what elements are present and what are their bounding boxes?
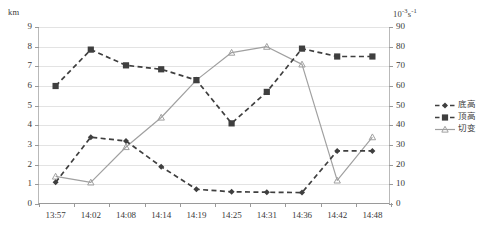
chart-figure: km 10-3s-1 底高顶高切变 0011022033044055066077… xyxy=(0,0,493,237)
data-point-marker xyxy=(193,186,199,192)
legend-item-3[interactable]: 切变 xyxy=(434,121,492,132)
data-point-marker xyxy=(334,148,340,154)
data-point-marker xyxy=(369,53,375,59)
data-point-marker xyxy=(264,89,270,95)
series-line xyxy=(56,49,373,124)
series-2 xyxy=(53,46,376,127)
right-axis-tick-label: 10 xyxy=(396,179,422,188)
data-point-marker xyxy=(334,53,340,59)
right-axis-tick-label: 20 xyxy=(396,160,422,169)
series-line xyxy=(56,137,373,192)
data-point-marker xyxy=(193,77,199,83)
legend-item-2[interactable]: 顶高 xyxy=(434,109,492,120)
right-axis-tick-label: 70 xyxy=(396,61,422,70)
legend-swatch-square-icon xyxy=(434,109,456,120)
data-point-marker xyxy=(88,47,94,53)
data-point-marker xyxy=(442,103,448,109)
legend-item-1[interactable]: 底高 xyxy=(434,97,492,108)
data-point-marker xyxy=(369,134,375,140)
right-axis-tick-label: 0 xyxy=(396,199,422,208)
right-axis-tick-label: 60 xyxy=(396,81,422,90)
series-line xyxy=(56,47,373,183)
left-axis-tick-label: 3 xyxy=(6,140,32,149)
chart-legend: 底高顶高切变 xyxy=(434,97,492,133)
legend-label: 切变 xyxy=(458,121,476,133)
data-point-marker xyxy=(158,66,164,72)
data-point-marker xyxy=(53,83,59,89)
legend-swatch-diamond-icon xyxy=(434,97,456,108)
data-point-marker xyxy=(123,62,129,68)
right-axis-tick-label: 80 xyxy=(396,42,422,51)
left-axis-tick-label: 2 xyxy=(6,160,32,169)
right-axis-tick-label: 50 xyxy=(396,101,422,110)
legend-swatch-triangle-icon xyxy=(434,121,456,132)
x-axis-tick-label: 14:48 xyxy=(351,211,393,220)
right-axis-tick-label: 30 xyxy=(396,140,422,149)
left-axis-tick-label: 9 xyxy=(6,22,32,31)
data-point-marker xyxy=(442,114,448,120)
data-point-marker xyxy=(299,46,305,52)
left-axis-tick-label: 6 xyxy=(6,81,32,90)
left-axis-tick-label: 1 xyxy=(6,179,32,188)
data-point-marker xyxy=(369,148,375,154)
data-point-marker xyxy=(229,120,235,126)
left-axis-tick-label: 7 xyxy=(6,61,32,70)
right-axis-tick-label: 90 xyxy=(396,22,422,31)
legend-label: 底高 xyxy=(458,97,476,109)
left-axis-tick-label: 0 xyxy=(6,199,32,208)
right-axis-tick-label: 40 xyxy=(396,120,422,129)
left-axis-tick-label: 8 xyxy=(6,42,32,51)
data-point-marker xyxy=(229,189,235,195)
legend-label: 顶高 xyxy=(458,109,476,121)
data-point-marker xyxy=(264,189,270,195)
left-axis-tick-label: 4 xyxy=(6,120,32,129)
left-axis-tick-label: 5 xyxy=(6,101,32,110)
series-1 xyxy=(53,134,376,195)
